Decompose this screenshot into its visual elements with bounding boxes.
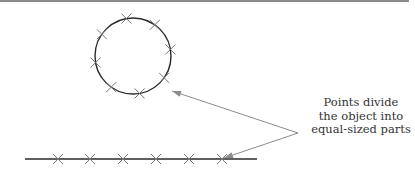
caption-line-2: the object into [306,110,415,124]
line-object [25,154,257,164]
diagram-canvas [0,0,415,177]
caption-line-1: Points divide [306,96,415,110]
callout-arrow-line [172,91,298,133]
caption-line-3: equal-sized parts [306,123,415,137]
division-mark-icon [159,73,169,83]
division-mark-icon [106,82,116,92]
division-mark-icon [97,29,107,39]
caption-text: Points divide the object into equal-size… [306,96,415,137]
callout-arrow-line [224,133,298,158]
division-mark-icon [150,20,160,30]
circle-object [91,14,176,99]
callout-arrows [172,91,298,158]
arrowhead-icon [172,91,181,97]
